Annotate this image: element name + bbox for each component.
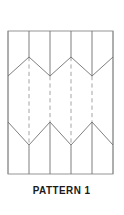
sheet-outline	[8, 31, 113, 174]
page-title: PATTERN 1	[33, 183, 91, 197]
caption-row: PATTERN 1	[0, 180, 124, 198]
pattern-figure: PATTERN 1	[0, 0, 124, 215]
